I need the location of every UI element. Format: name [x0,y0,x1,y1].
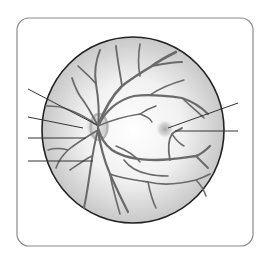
retina-diagram-canvas [0,0,269,260]
retina-diagram [0,0,269,260]
fundus-circle [42,37,224,223]
